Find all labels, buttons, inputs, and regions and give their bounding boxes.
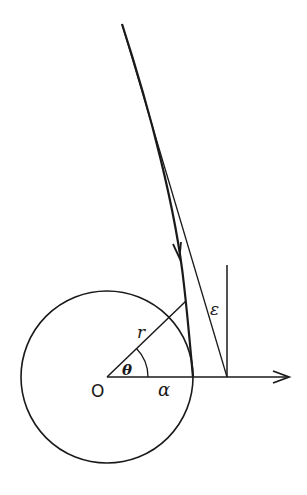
- trajectory-curve: [122, 24, 193, 377]
- label-alpha: α: [158, 379, 170, 400]
- theta-arc: [137, 349, 149, 378]
- label-epsilon: ε: [210, 299, 219, 319]
- trajectory-diagram: O r θ α ε: [0, 0, 307, 495]
- label-radius: r: [137, 322, 146, 342]
- label-origin: O: [91, 381, 104, 401]
- label-theta: θ: [122, 361, 132, 379]
- trajectory-arrow-icon: [173, 242, 181, 258]
